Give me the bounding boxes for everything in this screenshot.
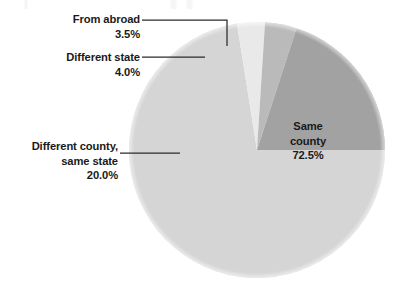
callout-different-state-value: 4.0%: [32, 65, 140, 80]
callout-different-county-label-line1: Different county,: [8, 139, 118, 154]
callout-different-state: Different state 4.0%: [32, 50, 140, 79]
pie-chart: From abroad 3.5% Different state 4.0% Di…: [0, 0, 407, 288]
callout-different-state-label: Different state: [32, 50, 140, 65]
callout-different-county-value: 20.0%: [8, 168, 118, 183]
callout-same-county-label-line1: Same: [272, 119, 344, 134]
callout-same-county-value: 72.5%: [272, 148, 344, 163]
callout-from-abroad-label: From abroad: [36, 12, 140, 27]
callout-same-county-label-line2: county: [272, 134, 344, 149]
callout-from-abroad: From abroad 3.5%: [36, 12, 140, 41]
callout-different-county-label-line2: same state: [8, 154, 118, 169]
callout-same-county: Same county 72.5%: [272, 119, 344, 163]
callout-different-county: Different county, same state 20.0%: [8, 139, 118, 183]
callout-from-abroad-value: 3.5%: [36, 27, 140, 42]
